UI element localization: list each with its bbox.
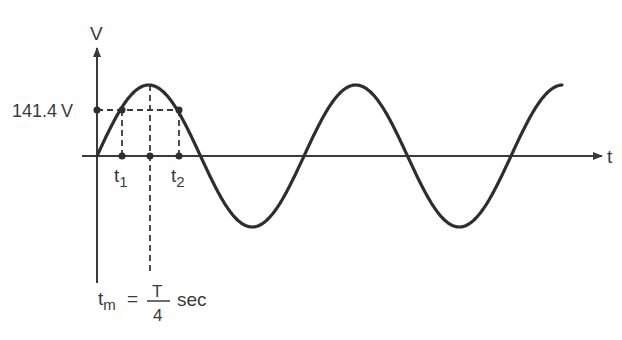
svg-text:=: = bbox=[127, 288, 138, 309]
level-dot-axis bbox=[94, 107, 101, 114]
level-dot-t2 bbox=[176, 107, 183, 114]
svg-text:4: 4 bbox=[153, 306, 162, 325]
y-axis-label: V bbox=[90, 23, 103, 44]
level-label: 141.4V bbox=[12, 101, 73, 121]
t1-label: t1 bbox=[114, 165, 128, 190]
t2-dot bbox=[176, 153, 183, 160]
t2-label: t2 bbox=[171, 165, 185, 190]
level-dot-t1 bbox=[119, 107, 126, 114]
sine-wave-diagram: V t 141.4V t1 t2 tm = T 4 sec bbox=[0, 0, 622, 340]
t1-dot bbox=[119, 153, 126, 160]
svg-text:sec: sec bbox=[177, 289, 207, 310]
svg-text:tm: tm bbox=[98, 288, 116, 313]
tm-formula: tm = T 4 sec bbox=[98, 282, 207, 325]
x-axis-label: t bbox=[607, 146, 613, 167]
svg-text:T: T bbox=[152, 282, 162, 301]
dashed-guides bbox=[97, 85, 179, 275]
tm-dot bbox=[147, 153, 154, 160]
